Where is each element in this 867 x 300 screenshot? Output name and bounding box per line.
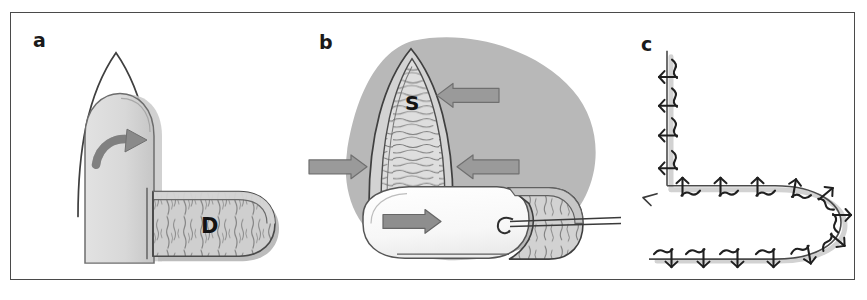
panel-c-label: c xyxy=(641,35,652,54)
panel-a: a xyxy=(11,13,301,279)
panel-b-label: b xyxy=(319,33,333,52)
panel-b-label-S: S xyxy=(405,92,419,115)
panel-a-illustration: D xyxy=(11,13,301,279)
suture-group-lower-horizontal xyxy=(654,245,817,267)
panel-c-illustration xyxy=(621,13,867,279)
panel-b-illustration: S xyxy=(301,13,621,279)
figure-border-frame: a xyxy=(10,12,855,280)
panel-c: c xyxy=(621,13,867,279)
suture-group-vertical xyxy=(659,60,677,175)
panel-b: b xyxy=(301,13,621,279)
panel-a-label: a xyxy=(33,31,46,50)
figure-root: a xyxy=(0,0,867,300)
panel-a-label-D: D xyxy=(201,214,218,238)
